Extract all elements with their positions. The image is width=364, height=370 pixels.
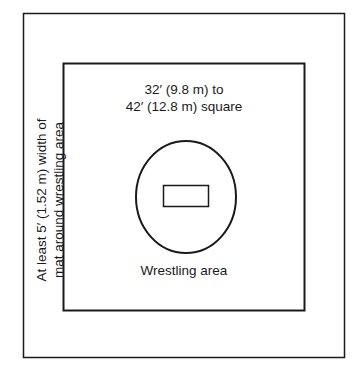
mat-size-line1: 32′ (9.8 m) to	[63, 81, 305, 98]
mat-size-label: 32′ (9.8 m) to 42′ (12.8 m) square	[63, 81, 305, 115]
border-width-line1: At least 5′ (1.52 m) width of	[33, 60, 50, 340]
border-width-line2: mat around wrestling area	[50, 60, 67, 340]
mat-size-line2: 42′ (12.8 m) square	[63, 98, 305, 115]
border-width-label: At least 5′ (1.52 m) width of mat around…	[33, 60, 67, 340]
wrestling-area-circle	[136, 141, 236, 253]
wrestling-area-label: Wrestling area	[63, 262, 305, 279]
starting-position-rect	[164, 186, 209, 207]
